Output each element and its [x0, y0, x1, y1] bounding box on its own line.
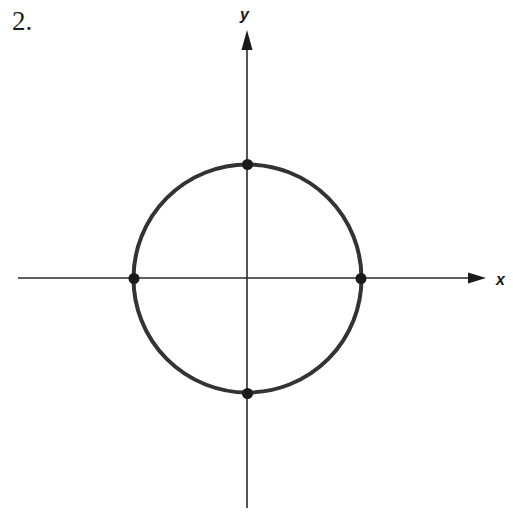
x-axis-arrow-icon [468, 273, 486, 284]
point-bottom [242, 388, 253, 399]
point-left [129, 273, 140, 284]
coordinate-diagram: x y [0, 0, 513, 516]
point-right [356, 273, 367, 284]
point-top [242, 159, 253, 170]
y-axis-label: y [239, 6, 250, 23]
x-axis-label: x [495, 271, 506, 288]
y-axis-arrow-icon [242, 30, 253, 50]
